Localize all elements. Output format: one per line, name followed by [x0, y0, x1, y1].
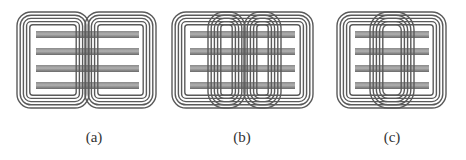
bar [355, 31, 429, 38]
coil-turn [23, 18, 82, 101]
coil-turn [376, 18, 407, 101]
coil-turn [91, 18, 149, 101]
outer-coil [337, 12, 446, 108]
inner-coil-right [244, 12, 281, 108]
coil-turn [247, 15, 278, 105]
coil-turn [85, 12, 156, 108]
panel-c-caption: (c) [384, 129, 401, 146]
coil-turn [211, 15, 242, 105]
inner-coil-left [208, 12, 245, 108]
coil-turn [373, 15, 411, 105]
coil-turn [343, 18, 439, 101]
coil-turn [17, 12, 89, 108]
inner-coil [370, 12, 414, 108]
bar [355, 48, 429, 55]
coil-turn [340, 15, 443, 105]
bar [355, 82, 429, 89]
panel-a-caption: (a) [86, 129, 103, 146]
coil-turn [208, 12, 245, 108]
panel-b [172, 12, 313, 108]
bar [355, 65, 429, 72]
right-coil [85, 12, 156, 108]
panel-b-caption: (b) [233, 129, 251, 146]
panel-a [17, 12, 156, 108]
panel-c [337, 12, 446, 108]
coil-turn [337, 12, 446, 108]
left-coil [17, 12, 89, 108]
coil-turn [244, 12, 281, 108]
